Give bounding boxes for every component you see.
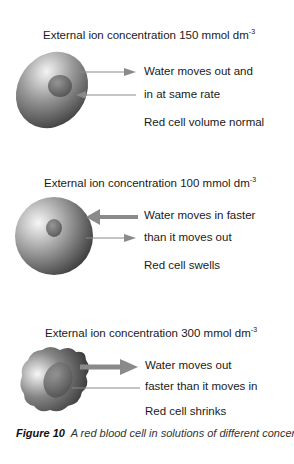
panel-1-line-2: in at same rate bbox=[144, 88, 220, 100]
panel-1-line-1: Water moves out and bbox=[144, 65, 253, 77]
panel-1-line-3: Red cell volume normal bbox=[144, 116, 264, 128]
panel-2-line-2: than it moves out bbox=[144, 231, 232, 243]
arrow-out-thick bbox=[80, 359, 138, 375]
panel-3-line-2: faster than it moves in bbox=[145, 380, 258, 392]
panel-3-title: External ion concentration 300 mmol dm-3 bbox=[45, 326, 257, 339]
panel-1-title: External ion concentration 150 mmol dm-3 bbox=[43, 28, 255, 41]
figure-label: Figure 10 bbox=[16, 427, 65, 439]
arrow-in-thin bbox=[76, 91, 136, 99]
panel-2-line-3: Red cell swells bbox=[144, 259, 220, 271]
cell-normal bbox=[1, 38, 103, 143]
panel-2-line-1: Water moves in faster bbox=[144, 209, 255, 221]
arrow-in-thick bbox=[86, 209, 138, 225]
figure-caption: Figure 10 A red blood cell in solutions … bbox=[16, 427, 294, 439]
cell-swollen bbox=[15, 197, 93, 275]
panel-3-line-3: Red cell shrinks bbox=[145, 405, 226, 417]
arrow-out-thin bbox=[86, 234, 136, 242]
panel-3-line-1: Water moves out bbox=[145, 359, 232, 371]
figure-caption-text: A red blood cell in solutions of differe… bbox=[71, 427, 294, 439]
panel-2-title: External ion concentration 100 mmol dm-3 bbox=[44, 176, 256, 189]
cell-shrunken bbox=[20, 347, 89, 411]
